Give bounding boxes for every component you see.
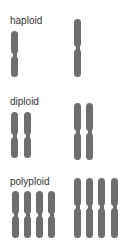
chromosome-arm-p [24, 191, 31, 214]
chromosome-arm-q [24, 137, 31, 158]
chromosome-arm-p [86, 178, 93, 206]
chromosome-diploid-small-1 [11, 112, 18, 158]
label-haploid: haploid [10, 15, 42, 27]
chromosome-arm-p [11, 112, 18, 135]
chromosome-polyploid-large-1 [74, 178, 81, 238]
chromosome-polyploid-large-3 [98, 178, 105, 238]
label-polyploid: polyploid [10, 176, 49, 188]
chromosome-arm-p [12, 191, 19, 214]
chromosome-arm-q [24, 216, 31, 238]
chromosome-polyploid-small-4 [48, 191, 55, 238]
chromosome-haploid-large-1 [74, 19, 81, 77]
chromosome-arm-q [86, 208, 93, 238]
chromosome-haploid-small-1 [11, 31, 18, 77]
chromosome-arm-p [74, 19, 81, 47]
chromosome-polyploid-small-2 [24, 191, 31, 238]
chromosome-polyploid-small-1 [12, 191, 19, 238]
chromosome-arm-q [111, 208, 118, 238]
chromosome-diploid-large-1 [74, 103, 81, 160]
chromosome-arm-p [36, 191, 43, 214]
chromosome-polyploid-large-2 [86, 178, 93, 238]
chromosome-arm-p [74, 103, 81, 131]
chromosome-arm-p [24, 112, 31, 135]
chromosome-arm-q [98, 208, 105, 238]
chromosome-arm-p [98, 178, 105, 206]
chromosome-arm-p [48, 191, 55, 214]
chromosome-arm-p [86, 103, 93, 131]
chromosome-diploid-large-2 [86, 103, 93, 160]
chromosome-arm-p [74, 178, 81, 206]
chromosome-arm-q [11, 137, 18, 158]
chromosome-arm-q [36, 216, 43, 238]
chromosome-arm-q [48, 216, 55, 238]
chromosome-arm-q [11, 56, 18, 77]
chromosome-polyploid-small-3 [36, 191, 43, 238]
chromosome-polyploid-large-4 [111, 178, 118, 238]
chromosome-arm-q [12, 216, 19, 238]
chromosome-arm-q [74, 133, 81, 160]
label-diploid: diploid [10, 96, 39, 108]
chromosome-diploid-small-2 [24, 112, 31, 158]
chromosome-arm-p [111, 178, 118, 206]
chromosome-arm-q [74, 208, 81, 238]
chromosome-arm-p [11, 31, 18, 54]
chromosome-arm-q [74, 49, 81, 77]
chromosome-arm-q [86, 133, 93, 160]
